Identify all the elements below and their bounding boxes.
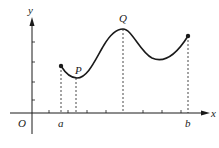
x-axis-arrow-icon xyxy=(201,111,210,116)
x-axis-label: x xyxy=(210,107,216,119)
y-axis-label: y xyxy=(27,4,33,16)
endpoint-a-dot xyxy=(59,64,63,68)
point-a-label: a xyxy=(58,117,64,129)
point-b-label: b xyxy=(185,117,191,129)
origin-label: O xyxy=(18,117,26,129)
function-graph-diagram: y x O a b P Q xyxy=(0,0,219,148)
y-axis-arrow-icon xyxy=(30,17,35,26)
point-q-label: Q xyxy=(119,12,127,24)
point-p-label: P xyxy=(74,64,82,76)
endpoint-b-dot xyxy=(186,34,190,38)
